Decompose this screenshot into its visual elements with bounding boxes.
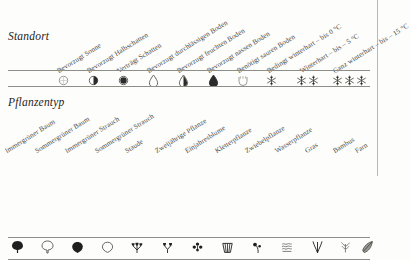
annual-flower-icon xyxy=(188,238,206,256)
column-label: Farn xyxy=(354,142,369,155)
biennial-icon xyxy=(158,238,176,256)
rule-section-separator xyxy=(8,86,370,87)
bamboo-icon xyxy=(336,238,354,256)
section-standort: Standort Bevorzugt Sonne Bevorzugt Halbs… xyxy=(0,0,378,88)
column-label: Gras xyxy=(304,142,320,156)
grass-icon xyxy=(308,238,326,256)
column-label: Bambus xyxy=(332,136,356,155)
evergreen-tree-filled-icon xyxy=(8,238,26,256)
water-plant-waves-icon xyxy=(278,238,296,256)
bulb-plant-icon xyxy=(248,238,266,256)
column-label: Staude xyxy=(124,139,145,156)
section-pflanzentyp: Pflanzentyp Immergrüner Baum Sommergrüne… xyxy=(0,88,378,176)
icon-row-pflanzentyp xyxy=(0,238,378,258)
deciduous-shrub-outline-icon xyxy=(98,238,116,256)
evergreen-shrub-filled-icon xyxy=(68,238,86,256)
perennial-icon xyxy=(128,238,146,256)
climbing-plant-basket-icon xyxy=(218,238,236,256)
column-label: Immergrüner Baum xyxy=(4,119,57,156)
fern-icon xyxy=(358,238,376,256)
deciduous-tree-outline-icon xyxy=(38,238,56,256)
column-labels-pflanzentyp: Immergrüner Baum Sommergrüner Baum Immer… xyxy=(0,88,378,176)
